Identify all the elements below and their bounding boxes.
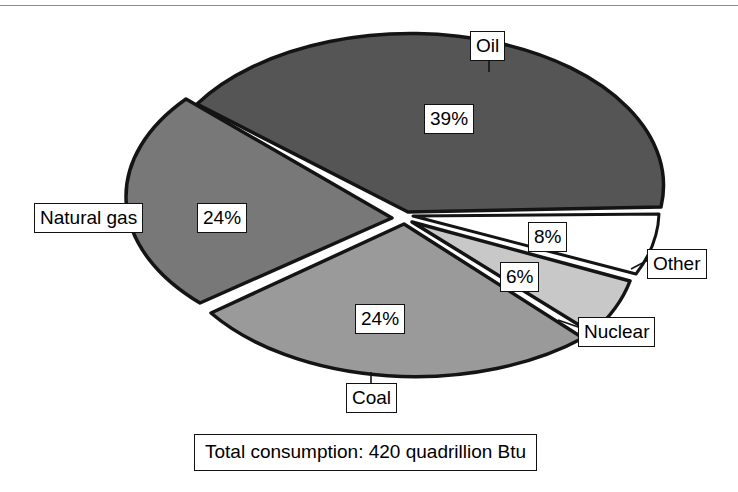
slice-label-oil[interactable]: Oil [470,31,505,61]
slice-label-nuclear[interactable]: Nuclear [578,317,655,347]
slice-value-other: 8% [528,222,567,252]
slice-value-natural-gas: 24% [197,203,247,233]
slice-label-coal[interactable]: Coal [346,383,397,413]
chart-page: Oil Natural gas Coal Nuclear Other 39% 2… [0,0,738,492]
slice-label-natural-gas[interactable]: Natural gas [34,203,143,233]
total-consumption-caption: Total consumption: 420 quadrillion Btu [194,434,537,471]
slice-value-coal: 24% [355,304,405,334]
pie-chart-graphic [0,0,738,492]
slice-value-oil: 39% [424,104,474,134]
slice-value-nuclear: 6% [500,262,539,292]
slice-label-other[interactable]: Other [647,249,707,279]
